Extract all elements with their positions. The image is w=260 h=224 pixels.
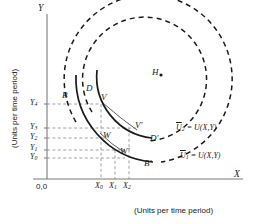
y-tick-label-y3: Y3 [30, 123, 37, 132]
point-label-v: V [101, 93, 107, 102]
y-tick-label-y4: Y4 [30, 99, 37, 108]
x-tick-label-x1: X1 [109, 182, 117, 191]
point-label-v-prime: V' [135, 121, 142, 130]
y-tick-sub-y4: 4 [34, 101, 37, 107]
curve-label-u1: U1 = U(X,Y) [180, 152, 221, 161]
indifference-curve-u2-solid-segment [97, 70, 152, 138]
point-label-h: H [152, 68, 159, 77]
x-tick-label-x2: X2 [123, 182, 131, 191]
y-tick-sub-y2: 2 [34, 135, 37, 141]
point-label-b: B [62, 91, 68, 100]
point-label-w: W [103, 131, 111, 140]
curve-label-u2: U2 = U(X,Y) [176, 124, 217, 133]
x-tick-sub-x2: 2 [128, 184, 131, 190]
curve-label-u1-rest: = U(X,Y) [189, 151, 221, 160]
y-tick-sub-y1: 1 [34, 146, 37, 152]
x-tick-label-x0: X0 [95, 182, 103, 191]
y-tick-sub-y3: 3 [34, 125, 37, 131]
y-tick-label-y0: Y0 [30, 153, 37, 162]
guide-lines [47, 104, 136, 179]
x-axis-label: X [234, 170, 240, 180]
y-tick-label-y2: Y2 [30, 133, 37, 142]
x-tick-sub-x0: 0 [100, 184, 103, 190]
curve-label-u2-rest: = U(X,Y) [185, 123, 217, 132]
y-axis-label: Y [38, 4, 43, 14]
indifference-curve-diagram: Y X (Units per time period) (Units per t… [0, 0, 260, 224]
x-tick-sub-x1: 1 [114, 184, 117, 190]
point-label-w-prime: W' [120, 147, 129, 156]
point-label-d-prime: D' [150, 134, 158, 143]
point-label-b-prime: B' [144, 159, 151, 168]
x-axis-title: (Units per time period) [134, 206, 213, 215]
point-label-d: D [86, 84, 93, 93]
y-tick-sub-y0: 0 [34, 155, 37, 161]
origin-label: 0,0 [36, 183, 47, 191]
bliss-point-dot [159, 73, 162, 76]
y-axis-title: (Units per time period) [10, 69, 19, 148]
